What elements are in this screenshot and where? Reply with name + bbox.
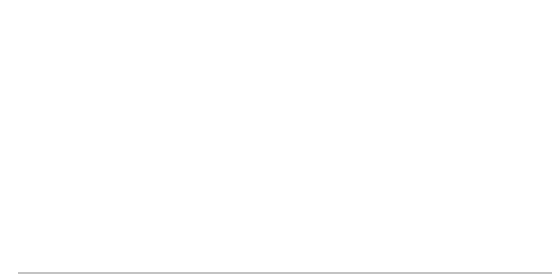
future-value-timeline-diagram <box>0 0 552 277</box>
